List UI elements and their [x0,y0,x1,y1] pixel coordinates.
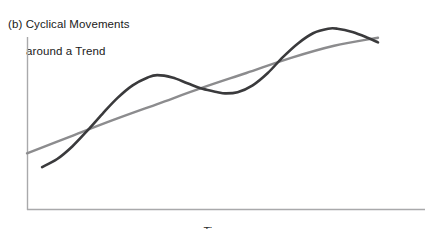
cyclical-movements-figure: (b) Cyclical Movements around a Trend Ti… [0,0,431,229]
trend-line-series [27,38,378,154]
cyclical-curve-series [42,28,378,167]
chart-plot-area [0,0,431,229]
x-axis-title: Time [0,225,431,229]
